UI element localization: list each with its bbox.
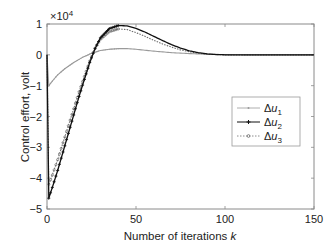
x-axis-title: Number of iterations k [124,230,238,242]
y-multiplier: ×104 [50,9,74,22]
series-marker [70,64,71,65]
series-marker [107,49,108,50]
series-marker [80,58,81,59]
series-marker [52,80,53,81]
series-marker [112,48,113,49]
chart: 10−1−2−3−4−5 050100150 ×104 Control effo… [0,0,335,251]
series-marker [86,55,87,56]
series-marker [87,54,88,55]
x-tick-label: 0 [44,213,50,225]
series-marker [89,53,90,54]
series-marker [100,50,101,51]
y-tick-label: −4 [29,172,42,184]
x-axis-title-variable: k [231,230,238,242]
series-marker [62,70,63,71]
series-marker [114,48,115,49]
series-marker [48,85,49,86]
x-axis-title-text: Number of iterations [124,230,231,242]
y-multiplier-base: ×10 [50,10,69,22]
series-marker [59,73,60,74]
series-marker [68,66,69,67]
series-marker [54,78,55,79]
series-marker [105,49,106,50]
series-marker [64,68,65,69]
series-marker [82,57,83,58]
legend: Δu1 Δu2 Δu3 [232,97,300,146]
y-tick-label: −2 [29,111,42,123]
x-tick-label: 100 [216,213,234,225]
series-marker [66,67,67,68]
series-marker [75,61,76,62]
y-tick-label: −1 [29,80,42,92]
x-tick-label: 150 [305,213,323,225]
series-marker [103,49,104,50]
series-marker [77,60,78,61]
y-tick-label: −3 [29,141,42,153]
series-marker [116,48,117,49]
y-tick-label: 1 [36,18,42,30]
y-tick-label: −5 [29,203,42,215]
series-marker [73,62,74,63]
series-marker [118,48,119,49]
series-marker [61,71,62,72]
y-axis-title: Control effort, volt [19,71,31,162]
y-axis-tick-labels: 10−1−2−3−4−5 [29,18,42,215]
series-marker [96,51,97,52]
series-marker [50,83,51,84]
series-marker [110,49,111,50]
series-marker [109,49,110,50]
y-multiplier-exponent: 4 [69,9,74,18]
y-tick-label: 0 [36,49,42,61]
series-marker [102,50,103,51]
series-marker [71,63,72,64]
series-marker [98,50,99,51]
x-axis-tick-labels: 050100150 [44,213,323,225]
x-tick-label: 50 [130,213,142,225]
series-marker [55,76,56,77]
series-marker [84,56,85,57]
series-marker [78,59,79,60]
series-marker [57,74,58,75]
legend-marker-du1 [248,107,250,109]
